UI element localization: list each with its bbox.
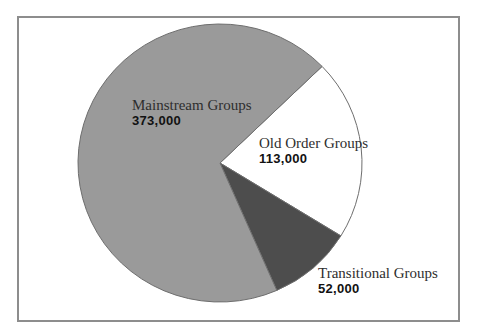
pie-chart-figure: Mainstream Groups 373,000 Old Order Grou…	[0, 0, 477, 336]
slice-name-transitional: Transitional Groups	[318, 265, 438, 281]
slice-name-old-order: Old Order Groups	[259, 135, 368, 151]
slice-value-transitional: 52,000	[318, 281, 438, 296]
slice-label-mainstream: Mainstream Groups 373,000	[132, 97, 252, 128]
slice-value-mainstream: 373,000	[132, 113, 252, 128]
slice-value-old-order: 113,000	[259, 151, 368, 166]
slice-label-old-order: Old Order Groups 113,000	[259, 135, 368, 166]
slice-name-mainstream: Mainstream Groups	[132, 97, 252, 113]
slice-label-transitional: Transitional Groups 52,000	[318, 265, 438, 296]
